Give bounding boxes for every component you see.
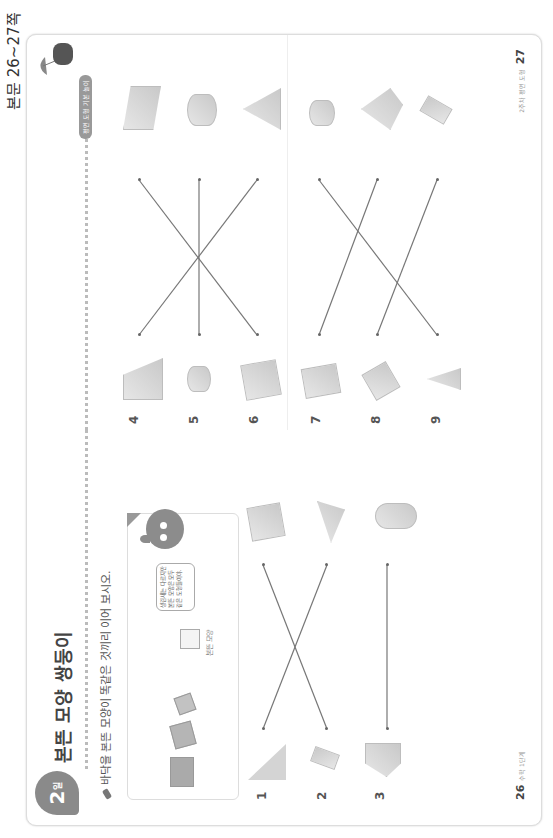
page-reference-text: 본문 26~27쪽 [2, 12, 23, 110]
match-dot[interactable] [198, 178, 201, 181]
match-dot[interactable] [318, 333, 321, 336]
match-dot[interactable] [376, 333, 379, 336]
match-dot[interactable] [262, 563, 265, 566]
footer-text: 2주차 평면 도형 [517, 69, 526, 113]
match-dot[interactable] [318, 178, 321, 181]
match-dot[interactable] [386, 563, 389, 566]
match-dot[interactable] [386, 727, 389, 730]
page-number: 27 [514, 49, 527, 64]
workbook-spread: 2일 본뜬 모양 쌍둥이 바닥을 본뜬 모양이 똑같은 것끼리 이어 보시오. … [26, 34, 542, 826]
match-dot[interactable] [325, 563, 328, 566]
match-dot[interactable] [325, 727, 328, 730]
footer-text: 수학 1단계 [517, 751, 526, 781]
page-number: 26 [514, 785, 527, 800]
match-dot[interactable] [436, 333, 439, 336]
match-dot[interactable] [256, 178, 259, 181]
match-lines [27, 35, 541, 430]
page-26: 2일 본뜬 모양 쌍둥이 바닥을 본뜬 모양이 똑같은 것끼리 이어 보시오. … [27, 430, 541, 825]
match-dot[interactable] [376, 178, 379, 181]
page-reference-label: 본문 26~27쪽 [2, 0, 24, 120]
page-27: 평면 도형 기본 놀이 4 5 6 7 8 9 [27, 35, 541, 430]
match-dot[interactable] [436, 178, 439, 181]
match-lines [27, 430, 541, 825]
match-dot[interactable] [256, 333, 259, 336]
match-dot[interactable] [262, 727, 265, 730]
match-dot[interactable] [198, 333, 201, 336]
match-dot[interactable] [138, 333, 141, 336]
match-dot[interactable] [138, 178, 141, 181]
